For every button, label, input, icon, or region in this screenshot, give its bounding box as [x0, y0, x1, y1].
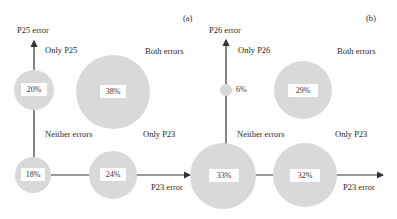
- panel-a-value-only-y: 20%: [21, 83, 47, 96]
- panel-b-y-axis-label: P26 error: [209, 25, 241, 35]
- panel-a-value-both: 38%: [100, 85, 126, 98]
- panel-b-value-neither: 33%: [209, 169, 239, 182]
- panel-b-quadrant-top-right: Both errors: [337, 46, 375, 56]
- panel-a-x-axis-label: P23 error: [151, 182, 183, 192]
- panel-b-x-axis-label: P23 error: [343, 182, 375, 192]
- panel-a-quadrant-bottom-right: Only P23: [143, 129, 175, 139]
- panel-b-tag: (b): [366, 13, 376, 23]
- panel-b-quadrant-top-left: Only P26: [238, 45, 270, 55]
- panel-b-circle-only-y: [220, 84, 232, 96]
- panel-b-value-only-y: 6%: [236, 85, 247, 94]
- panel-b-quadrant-bottom-left: Neither errors: [237, 129, 284, 139]
- panel-a-y-axis-label: P25 error: [17, 25, 49, 35]
- panel-b-value-only-x: 32%: [290, 169, 320, 182]
- panel-a-tag: (a): [183, 13, 192, 23]
- panel-a-value-only-x: 24%: [100, 168, 126, 181]
- panel-a-value-neither: 18%: [21, 168, 45, 181]
- panel-a-quadrant-top-left: Only P25: [45, 45, 77, 55]
- panel-a-quadrant-top-right: Both errors: [145, 46, 183, 56]
- panel-b-quadrant-bottom-right: Only P23: [335, 129, 367, 139]
- panel-a-quadrant-bottom-left: Neither errors: [45, 129, 92, 139]
- panel-b-value-both: 29%: [288, 84, 318, 97]
